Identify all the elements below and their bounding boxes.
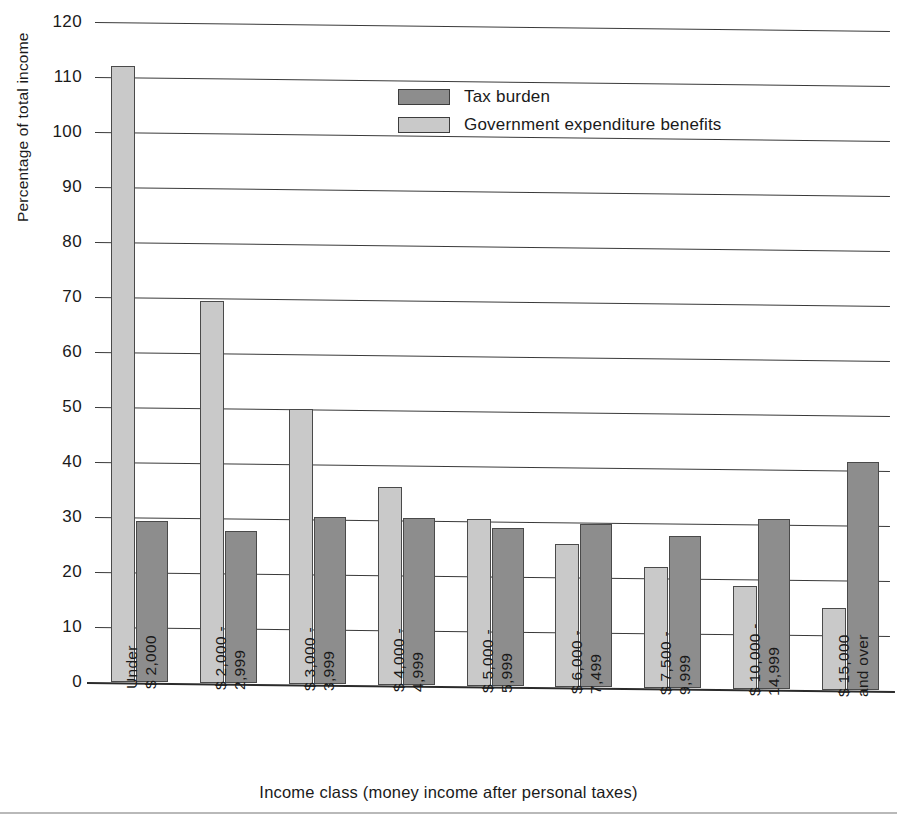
legend-entry: Tax burden [398,84,728,109]
y-tick-label: 110 [36,68,82,85]
x-tick-label-line: 9,999 [676,599,693,695]
gridline [95,242,890,252]
x-tick-label-line: Under [123,593,140,689]
page-bottom-rule [0,812,897,814]
x-tick-label-line: 2,999 [231,594,248,690]
x-tick-label-group: $ 6,000 -7,499 [568,694,654,712]
y-tick-label: 70 [36,288,82,305]
chart-legend: Tax burdenGovernment expenditure benefit… [398,84,728,140]
x-tick-label-group: $ 3,000 -3,999 [301,691,387,709]
y-tick-label: 30 [36,508,82,525]
x-tick-label-group: $ 15,000and over [835,697,897,715]
y-tick-label: 120 [36,13,82,30]
y-tick-label: 90 [36,178,82,195]
x-tick-label-group: $ 10,000 -14,999 [746,696,832,714]
x-tick-label-line: 5,999 [498,597,515,693]
y-tick-label: 60 [36,343,82,360]
legend-swatch-dark [398,89,450,105]
y-tick-label: 10 [36,618,82,635]
bar-chart-figure: Percentage of total income 0102030405060… [0,0,897,819]
gridline [95,22,890,32]
y-tick-label: 0 [36,673,82,690]
x-tick-label-line: 7,499 [587,598,604,694]
x-tick-label-line: 4,999 [409,596,426,692]
y-axis-tick-labels: 0102030405060708090100110120 [36,0,82,819]
y-tick-label: 40 [36,453,82,470]
bar-benefits-0 [111,66,135,682]
x-axis-title: Income class (money income after persona… [0,783,897,802]
x-tick-label-line: $ 2,000 [142,593,159,689]
x-tick-label-line: $ 5,000 - [479,597,496,693]
x-tick-label-line: $ 4,000 - [390,596,407,692]
x-tick-label-line: 3,999 [320,595,337,691]
legend-entry: Government expenditure benefits [398,112,728,137]
gridline [95,187,890,197]
x-tick-label-line: $ 6,000 - [568,598,585,694]
x-tick-label-line: $ 10,000 - [746,600,763,696]
y-tick-label: 20 [36,563,82,580]
x-tick-label-group: $ 2,000 -2,999 [212,690,298,708]
x-tick-label-line: $ 3,000 - [301,595,318,691]
y-tick-label: 80 [36,233,82,250]
x-tick-label-group: $ 7,500 -9,999 [657,695,743,713]
x-tick-label-line: 14,999 [765,600,782,696]
legend-label: Government expenditure benefits [464,115,722,135]
x-tick-label-group: Under$ 2,000 [123,689,209,707]
x-tick-label-line: $ 2,000 - [212,594,229,690]
x-tick-label-group: $ 5,000 -5,999 [479,693,565,711]
legend-label: Tax burden [464,87,550,107]
legend-swatch-light [398,117,450,133]
x-tick-label-group: $ 4,000 -4,999 [390,692,476,710]
y-tick-label: 50 [36,398,82,415]
x-tick-label-line: $ 15,000 [835,601,852,697]
x-tick-label-line: $ 7,500 - [657,599,674,695]
x-tick-label-line: and over [854,601,871,697]
y-tick-label: 100 [36,123,82,140]
x-axis-tick-labels: Under$ 2,000$ 2,000 -2,999$ 3,000 -3,999… [95,683,895,773]
